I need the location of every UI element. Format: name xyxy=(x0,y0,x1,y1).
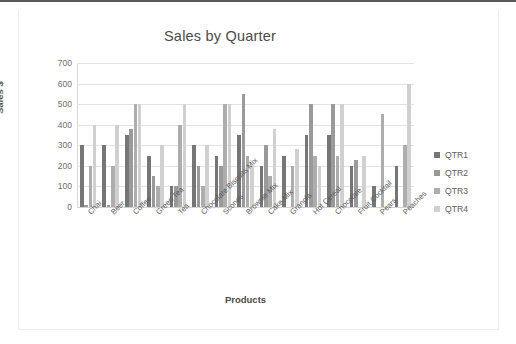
bar[interactable] xyxy=(134,104,138,207)
bar[interactable] xyxy=(138,104,142,207)
bar[interactable] xyxy=(407,84,411,207)
bar[interactable] xyxy=(152,176,156,207)
card-edge-right xyxy=(498,10,499,330)
card-edge-left xyxy=(18,10,19,330)
y-tick-label: 500 xyxy=(32,99,72,109)
bar[interactable] xyxy=(313,156,317,207)
bar-group xyxy=(234,63,256,207)
bar[interactable] xyxy=(273,129,277,207)
x-axis-labels: ChaiBeerCoffeeGreen TeaTeaChocolate Bisc… xyxy=(77,210,414,211)
bar[interactable] xyxy=(80,145,84,207)
chart-title: Sales by Quarter xyxy=(0,28,440,44)
y-tick-label: 200 xyxy=(32,161,72,171)
bar[interactable] xyxy=(125,135,129,207)
bar-groups xyxy=(77,63,414,207)
y-tick-label: 600 xyxy=(32,79,72,89)
legend-label: QTR3 xyxy=(445,186,468,196)
y-tick-label: 700 xyxy=(32,58,72,68)
y-axis-title: Sales $ xyxy=(0,81,5,114)
bar[interactable] xyxy=(93,125,97,207)
legend-label: QTR4 xyxy=(445,204,468,214)
bar[interactable] xyxy=(309,104,313,207)
legend-swatch-icon xyxy=(434,206,440,212)
bar-group xyxy=(302,63,324,207)
legend-swatch-icon xyxy=(434,152,440,158)
bar[interactable] xyxy=(403,145,407,207)
bar-group xyxy=(392,63,414,207)
card-edge-bottom xyxy=(18,329,499,330)
bar[interactable] xyxy=(192,145,196,207)
legend-item[interactable]: QTR2 xyxy=(434,168,468,178)
bar-group xyxy=(99,63,121,207)
bar-group xyxy=(122,63,144,207)
legend-swatch-icon xyxy=(434,188,440,194)
bar[interactable] xyxy=(115,125,119,207)
bar[interactable] xyxy=(102,145,106,207)
bar[interactable] xyxy=(197,166,201,207)
bar[interactable] xyxy=(336,156,340,207)
chart-legend: QTR1QTR2QTR3QTR4 xyxy=(434,150,468,214)
bar-group xyxy=(347,63,369,207)
y-tick-label: 300 xyxy=(32,140,72,150)
bar-group xyxy=(77,63,99,207)
y-tick-label: 0 xyxy=(32,202,72,212)
bar-group xyxy=(144,63,166,207)
legend-item[interactable]: QTR1 xyxy=(434,150,468,160)
bar-group xyxy=(279,63,301,207)
x-axis-title: Products xyxy=(77,294,414,305)
bar[interactable] xyxy=(107,205,111,207)
legend-item[interactable]: QTR3 xyxy=(434,186,468,196)
plot-area xyxy=(77,63,414,207)
bar[interactable] xyxy=(111,166,115,207)
bar[interactable] xyxy=(205,145,209,207)
bar[interactable] xyxy=(291,166,295,207)
y-tick-label: 100 xyxy=(32,181,72,191)
bar[interactable] xyxy=(129,129,133,207)
legend-label: QTR1 xyxy=(445,150,468,160)
legend-swatch-icon xyxy=(434,170,440,176)
legend-item[interactable]: QTR4 xyxy=(434,204,468,214)
chart-container: Sales by Quarter Sales $ 700600500400300… xyxy=(0,0,516,344)
bar-group xyxy=(189,63,211,207)
y-axis-ticks: 7006005004003002001000 xyxy=(28,63,72,207)
legend-label: QTR2 xyxy=(445,168,468,178)
bar[interactable] xyxy=(160,145,164,207)
y-tick-label: 400 xyxy=(32,120,72,130)
bar[interactable] xyxy=(242,94,246,207)
bar[interactable] xyxy=(89,166,93,207)
